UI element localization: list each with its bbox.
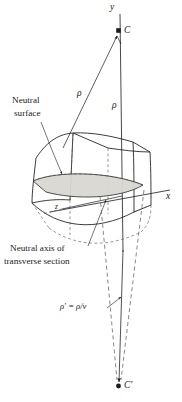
- figure-drawing-canvas: [0, 0, 182, 402]
- neutral-surface-shaded: [33, 174, 143, 197]
- neutral-surface-label-line2: surface: [14, 108, 41, 118]
- axis-label-z: z: [55, 203, 58, 211]
- y-axis-line: [120, 14, 123, 252]
- rho-label-vertical: ρ: [112, 100, 117, 111]
- rho-slant-line: [63, 36, 117, 148]
- point-label-c-prime: C′: [124, 380, 132, 391]
- leader-line-rho-prime: [107, 297, 121, 308]
- rho-prime-equation-label: ρ′ = ρ/ν: [60, 302, 86, 312]
- vertical-axis-extension: [119, 250, 123, 382]
- center-point-c: [116, 28, 121, 33]
- neutral-axis-label-line1: Neutral axis of: [10, 243, 65, 253]
- center-point-c-prime: [116, 384, 121, 389]
- anticlastic-curvature-figure: y C ρ ρ Neutral surface x z Neutral axis…: [0, 0, 182, 402]
- axis-label-x: x: [166, 191, 170, 202]
- neutral-axis-label-line2: transverse section: [4, 256, 70, 266]
- axis-label-y: y: [110, 2, 114, 13]
- point-label-c: C: [124, 25, 130, 36]
- neutral-surface-label-line1: Neutral: [12, 95, 40, 105]
- rho-label-slant: ρ: [77, 88, 82, 99]
